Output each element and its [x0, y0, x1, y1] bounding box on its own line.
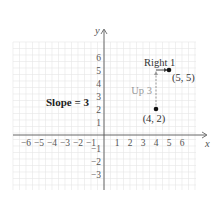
data-point: [167, 68, 172, 73]
data-point: [154, 107, 159, 112]
point-label-5-5: (5, 5): [172, 72, 195, 84]
right-label: Right 1: [144, 57, 175, 68]
coordinate-plane: xy −6−5−4−3−2−1123456654321−1−2−3 Slope …: [0, 0, 223, 200]
x-tick-label: −5: [34, 138, 44, 148]
x-tick-label: 6: [180, 138, 185, 148]
y-tick-label: 3: [96, 92, 101, 102]
y-tick-label: 4: [96, 79, 101, 89]
y-tick-label: −3: [91, 170, 101, 180]
y-tick-label: −2: [91, 157, 101, 167]
x-tick-label: 2: [128, 138, 133, 148]
x-tick-label: −2: [73, 138, 83, 148]
annotations: Slope = 3Up 3Right 1(4, 2)(5, 5): [46, 57, 195, 125]
y-tick-label: 2: [96, 105, 101, 115]
x-tick-label: 4: [154, 138, 159, 148]
x-axis-label: x: [204, 138, 210, 149]
y-tick-label: 6: [96, 53, 101, 63]
x-tick-label: −6: [21, 138, 31, 148]
y-tick-label: 5: [96, 66, 101, 76]
x-tick-label: 3: [141, 138, 146, 148]
x-tick-label: 5: [167, 138, 172, 148]
x-tick-label: 1: [115, 138, 120, 148]
slope-label: Slope = 3: [46, 96, 89, 108]
y-tick-label: −1: [91, 144, 101, 154]
x-tick-label: −3: [60, 138, 70, 148]
point-label-4-2: (4, 2): [143, 113, 166, 125]
up-arrowhead-icon: [154, 71, 158, 75]
y-tick-label: 1: [96, 118, 101, 128]
up-label: Up 3: [131, 85, 152, 96]
x-tick-label: −4: [47, 138, 57, 148]
y-axis-label: y: [94, 25, 100, 36]
